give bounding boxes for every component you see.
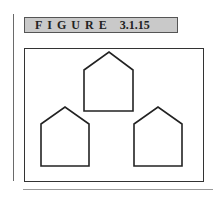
bottom-horizontal-rule <box>23 189 213 190</box>
house-left-shape <box>41 107 89 166</box>
house-right-shape <box>134 107 182 166</box>
house-top-shape <box>84 52 133 111</box>
houses-diagram <box>0 0 213 198</box>
